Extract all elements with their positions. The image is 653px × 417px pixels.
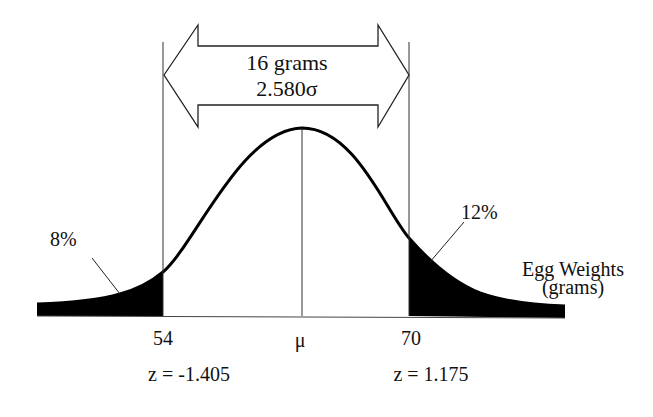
left-percent-leader: [92, 258, 120, 294]
left-tail-shaded-area: [37, 272, 163, 316]
mean-label: μ: [295, 330, 306, 350]
right-percent-leader: [430, 222, 464, 262]
span-grams-label: 16 grams: [246, 52, 327, 74]
span-sigma-label: 2.580σ: [256, 78, 317, 100]
right-tail-percent: 12%: [461, 202, 498, 222]
axis-label-line2: (grams): [542, 277, 604, 297]
left-z-label: z = -1.405: [148, 364, 230, 384]
right-value-label: 70: [401, 328, 421, 348]
left-tail-percent: 8%: [50, 229, 77, 249]
right-z-label: z = 1.175: [393, 364, 468, 384]
left-value-label: 54: [153, 328, 173, 348]
